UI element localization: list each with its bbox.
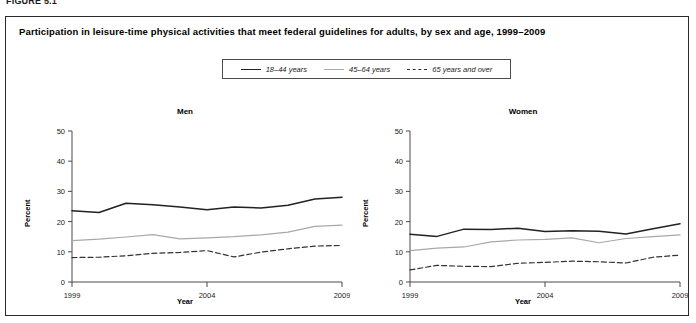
chart-panel-men: Men Percent Year 01020304050199920042009 [20, 89, 350, 317]
legend-line-solid-light-icon [324, 65, 344, 73]
women-y-tick-label: 30 [395, 187, 403, 196]
figure-number-label: FIGURE 5.1 [6, 0, 57, 8]
men-x-tick-label: 2004 [199, 291, 216, 300]
women-x-tick-label: 1999 [402, 291, 419, 300]
women-y-tick-label: 10 [395, 248, 403, 257]
women-series-line [410, 235, 680, 251]
men-x-tick-label: 2009 [334, 291, 350, 300]
men-series-line [72, 197, 342, 212]
men-series-line [72, 225, 342, 240]
women-series-line [410, 255, 680, 270]
women-series-line [410, 224, 680, 237]
chart-panel-women: Women Percent Year 010203040501999200420… [358, 89, 688, 317]
women-y-tick-label: 0 [399, 278, 403, 287]
legend-item-65-over: 65 years and over [407, 65, 492, 74]
plot-area-men: 01020304050199920042009 [20, 89, 350, 317]
men-y-tick-label: 40 [57, 157, 65, 166]
men-y-tick-label: 20 [57, 218, 65, 227]
chart-legend: 18–44 years 45–64 years 65 years and ove… [222, 59, 511, 79]
figure-title: Participation in leisure-time physical a… [19, 26, 545, 37]
men-y-tick-label: 0 [61, 278, 65, 287]
legend-line-dashed-icon [407, 65, 427, 73]
women-x-tick-label: 2009 [672, 291, 688, 300]
legend-label-45-64: 45–64 years [349, 65, 390, 74]
men-y-tick-label: 50 [57, 127, 65, 136]
women-x-tick-label: 2004 [537, 291, 554, 300]
legend-label-65-over: 65 years and over [432, 65, 492, 74]
legend-item-18-44: 18–44 years [241, 65, 307, 74]
figure-frame: Participation in leisure-time physical a… [5, 16, 689, 316]
men-x-tick-label: 1999 [64, 291, 81, 300]
men-y-tick-label: 10 [57, 248, 65, 257]
plot-area-women: 01020304050199920042009 [358, 89, 688, 317]
legend-line-solid-dark-icon [241, 65, 261, 73]
women-y-tick-label: 50 [395, 127, 403, 136]
legend-label-18-44: 18–44 years [266, 65, 307, 74]
legend-item-45-64: 45–64 years [324, 65, 390, 74]
men-y-tick-label: 30 [57, 187, 65, 196]
men-series-line [72, 245, 342, 257]
women-y-tick-label: 20 [395, 218, 403, 227]
women-y-tick-label: 40 [395, 157, 403, 166]
